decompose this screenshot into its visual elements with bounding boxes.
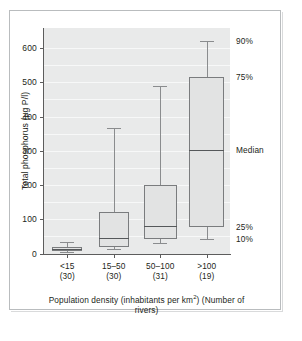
y-axis [43, 28, 44, 255]
y-axis-tick-label: 400 [22, 112, 37, 122]
whisker-upper [207, 41, 208, 77]
x-axis-title-line1: Population density (inhabitants per km [49, 295, 193, 305]
whisker-cap-lower [153, 243, 167, 244]
y-axis-tick-label: 300 [22, 146, 37, 156]
x-axis-tick [114, 254, 115, 258]
y-axis-tick-label: 600 [22, 43, 37, 53]
x-axis-tick [67, 254, 68, 258]
x-axis-category-label: >100 [197, 261, 216, 271]
box-plot-box [99, 212, 129, 246]
y-axis-tick [40, 219, 44, 220]
x-axis-category: >100(19) [197, 261, 216, 281]
gridline [44, 48, 230, 49]
y-axis-tick [40, 185, 44, 186]
box-plot-box [189, 77, 224, 227]
percentile-annotation: 75% [236, 72, 253, 82]
x-axis-title: Population density (inhabitants per km2)… [44, 292, 249, 316]
whisker-cap-upper [200, 41, 214, 42]
whisker-cap-upper [60, 242, 74, 243]
box-plot-median [189, 150, 224, 151]
percentile-annotation: 25% [236, 222, 253, 232]
whisker-cap-upper [153, 86, 167, 87]
whisker-upper [160, 86, 161, 185]
x-axis-tick [160, 254, 161, 258]
whisker-cap-lower [200, 239, 214, 240]
figure: Total phosphorus (µg P/l) Population den… [0, 0, 302, 341]
x-axis-category: 15–50(30) [102, 261, 126, 281]
y-axis-tick-label: 200 [22, 180, 37, 190]
whisker-upper [114, 128, 115, 212]
x-axis-category-label: <15 [60, 261, 74, 271]
percentile-annotation: Median [236, 145, 264, 155]
y-axis-tick-label: 0 [32, 249, 37, 259]
y-axis-tick-label: 100 [22, 214, 37, 224]
y-axis-tick [40, 117, 44, 118]
whisker-lower [207, 227, 208, 239]
x-axis-category-count: (30) [102, 271, 126, 281]
y-axis-tick [40, 254, 44, 255]
box-plot-box [144, 185, 177, 239]
x-axis-category: <15(30) [60, 261, 75, 281]
x-axis-category-count: (30) [60, 271, 75, 281]
gridline [44, 65, 230, 66]
y-axis-tick-label: 500 [22, 77, 37, 87]
x-axis-category-count: (31) [146, 271, 174, 281]
x-axis-category-count: (19) [197, 271, 216, 281]
y-axis-tick [40, 151, 44, 152]
x-axis-category: 50–100(31) [146, 261, 174, 281]
percentile-annotation: 10% [236, 234, 253, 244]
box-plot-median [99, 238, 129, 239]
y-axis-tick [40, 82, 44, 83]
x-axis-title-line1-end: ) [197, 295, 200, 305]
whisker-cap-lower [60, 252, 74, 253]
x-axis-tick [207, 254, 208, 258]
x-axis [43, 254, 231, 255]
y-axis-title: Total phosphorus (µg P/l) [20, 92, 30, 190]
percentile-annotation: 90% [236, 36, 253, 46]
whisker-cap-lower [107, 249, 121, 250]
box-plot-median [144, 226, 177, 227]
gridline [44, 236, 230, 237]
y-axis-tick [40, 48, 44, 49]
x-axis-category-label: 50–100 [146, 261, 174, 271]
box-plot-median [52, 249, 82, 250]
x-axis-category-label: 15–50 [102, 261, 126, 271]
whisker-cap-upper [107, 128, 121, 129]
